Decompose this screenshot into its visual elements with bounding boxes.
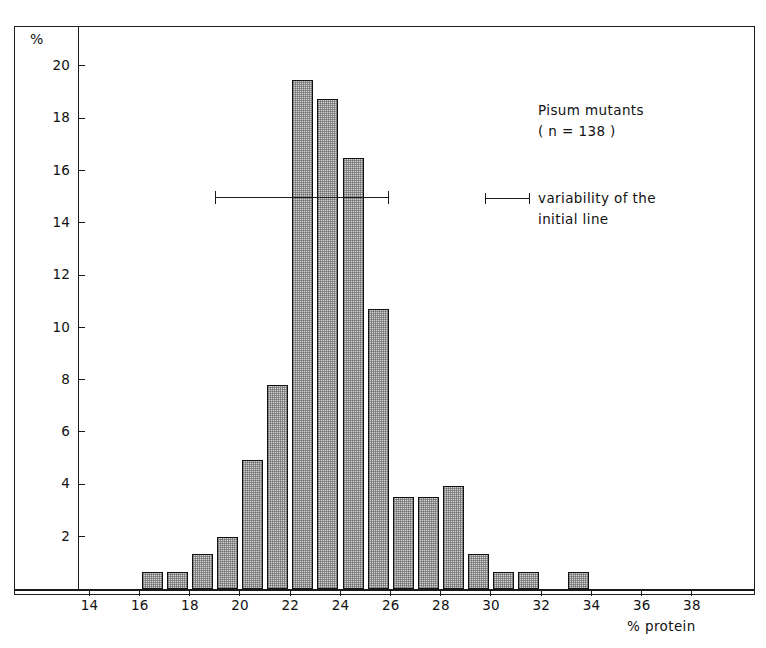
y-tick-mark [78,222,85,223]
x-tick-mark [641,589,642,596]
x-tick-mark [139,589,140,596]
y-tick-mark [78,327,85,328]
legend-error-bar-line [485,198,529,199]
x-tick-mark [340,589,341,596]
y-tick-mark [78,484,85,485]
x-tick-label: 24 [324,597,358,613]
y-tick-mark [78,379,85,380]
variability-error-bar-line [215,197,388,198]
x-tick-mark [189,589,190,596]
histogram-bar [343,158,364,589]
histogram-bar [217,537,238,589]
y-tick-mark [78,118,85,119]
y-tick-label: 6 [40,423,70,439]
x-tick-mark [89,589,90,596]
histogram-bar [393,497,414,589]
histogram-bar [192,554,213,589]
x-tick-mark [541,589,542,596]
histogram-bar [242,460,263,589]
legend-error-bar-cap-left [485,193,486,204]
x-tick-mark [490,589,491,596]
histogram-bar [443,486,464,589]
x-tick-label: 28 [424,597,458,613]
variability-error-bar-cap-left [215,191,216,204]
x-tick-mark [691,589,692,596]
histogram-bar [468,554,489,589]
histogram-bar [568,572,589,589]
y-axis-title: % [30,31,44,47]
histogram-bar [167,572,188,589]
y-tick-mark [78,431,85,432]
x-tick-label: 26 [374,597,408,613]
histogram-bar [368,309,389,589]
x-tick-label: 20 [223,597,257,613]
y-tick-label: 4 [40,475,70,491]
x-tick-label: 18 [173,597,207,613]
histogram-figure: % % protein 2468101214161820 14161820222… [0,0,766,648]
x-tick-mark [239,589,240,596]
y-tick-label: 10 [40,319,70,335]
x-tick-label: 16 [123,597,157,613]
histogram-bar [418,497,439,589]
x-tick-label: 30 [474,597,508,613]
y-tick-label: 12 [40,266,70,282]
legend-error-bar-cap-right [529,193,530,204]
legend-label-line1: variability of the [538,188,656,208]
y-tick-label: 2 [40,528,70,544]
y-tick-label: 14 [40,214,70,230]
x-axis-line [14,589,755,591]
x-tick-label: 14 [73,597,107,613]
variability-error-bar-cap-right [388,191,389,204]
chart-title-annotation: Pisum mutants [538,100,644,120]
histogram-bar [493,572,514,589]
histogram-bar [292,80,313,589]
y-tick-label: 16 [40,162,70,178]
x-tick-mark [390,589,391,596]
y-tick-mark [78,536,85,537]
legend-label-line2: initial line [538,209,609,229]
y-tick-mark [78,275,85,276]
x-tick-label: 38 [675,597,709,613]
x-tick-label: 32 [524,597,558,613]
x-tick-mark [290,589,291,596]
y-tick-mark [78,170,85,171]
x-tick-label: 34 [575,597,609,613]
x-axis-title: % protein [627,618,696,634]
y-axis-line [78,26,79,590]
y-tick-label: 18 [40,109,70,125]
histogram-bar [317,99,338,589]
sample-size-annotation: ( n = 138 ) [538,121,616,141]
x-tick-mark [591,589,592,596]
y-tick-mark [78,65,85,66]
y-tick-label: 8 [40,371,70,387]
x-tick-label: 36 [625,597,659,613]
histogram-bar [267,385,288,589]
y-tick-label: 20 [40,57,70,73]
x-tick-mark [440,589,441,596]
x-tick-label: 22 [273,597,307,613]
histogram-bar [518,572,539,589]
histogram-bar [142,572,163,589]
